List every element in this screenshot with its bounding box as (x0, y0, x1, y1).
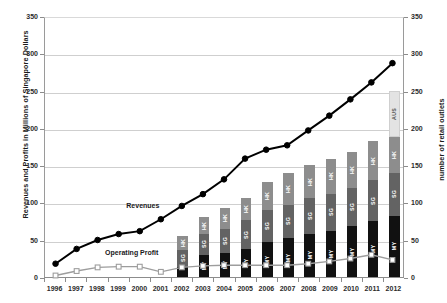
bar-segment-HK-2006: HK (262, 182, 273, 210)
y-tick-label-left-100: 100 (12, 199, 38, 206)
bar-segment-HK-2011: HK (368, 141, 379, 180)
bar-segment-MY-2006: MY (262, 242, 273, 277)
bar-segment-HK-2004: HK (220, 208, 231, 229)
y-tickmark (404, 278, 408, 279)
y-axis-label-right: number of retail outlets (437, 70, 446, 210)
y-tick-label-right-250: 250 (411, 88, 437, 95)
bar-segment-label-SG: SG (201, 240, 207, 248)
bar-segment-HK-2010: HK (347, 152, 358, 188)
bar-segment-label-SG: SG (180, 254, 186, 262)
gridline (45, 93, 403, 94)
bar-segment-label-HK: HK (328, 172, 334, 180)
y-tick-label-left-350: 350 (12, 13, 38, 20)
stacked-bar-2003: MYSGHK (199, 217, 210, 277)
data-point-revenues-2004 (221, 177, 227, 183)
x-tickmark (256, 278, 257, 282)
bar-segment-SG-2006: SG (262, 210, 273, 242)
bar-segment-label-HK: HK (180, 239, 186, 247)
data-point-revenues-2003 (200, 191, 206, 197)
gridline (45, 55, 403, 56)
y-tickmark (404, 129, 408, 130)
bar-segment-MY-2003: MY (199, 255, 210, 277)
y-tick-label-right-100: 100 (411, 199, 437, 206)
stacked-bar-2010: MYSGHK (347, 152, 358, 277)
bar-segment-label-HK: HK (307, 178, 313, 186)
bar-segment-label-HK: HK (349, 166, 355, 174)
bar-segment-SG-2005: SG (241, 220, 252, 248)
data-point-revenues-2005 (242, 156, 248, 162)
y-tickmark (40, 203, 44, 204)
bar-segment-SG-2007: SG (283, 205, 294, 239)
y-tickmark (40, 54, 44, 55)
x-tickmark (213, 278, 214, 282)
bar-segment-label-SG: SG (328, 208, 334, 216)
bar-segment-label-MY: MY (349, 247, 355, 255)
data-point-revenues-2007 (284, 143, 290, 149)
y-tickmark (404, 203, 408, 204)
y-tickmark (404, 241, 408, 242)
stacked-bar-2009: MYSGHK (326, 159, 337, 277)
bar-segment-label-SG: SG (370, 197, 376, 205)
bar-segment-label-MY: MY (328, 250, 334, 258)
stacked-bar-2004: MYSGHK (220, 208, 231, 277)
x-tickmark (277, 278, 278, 282)
bar-segment-SG-2002: SG (177, 250, 188, 266)
y-tickmark (404, 17, 408, 18)
annotation-revenues: Revenues (126, 202, 159, 209)
chart-container: Revenues and Profits in Millions of Sing… (0, 0, 447, 303)
plot-area: SGHKMYSGHKMYSGHKMYSGHKMYSGHKMYSGHKMYSGHK… (44, 17, 404, 278)
stacked-bar-2005: MYSGHK (241, 198, 252, 277)
y-tick-label-right-350: 350 (411, 13, 437, 20)
bar-segment-label-SG: SG (285, 217, 291, 225)
bar-segment-label-SG: SG (307, 212, 313, 220)
bar-segment-SG-2010: SG (347, 188, 358, 227)
x-tickmark (383, 278, 384, 282)
bar-segment-HK-2008: HK (304, 165, 315, 198)
stacked-bar-2002: SGHK (177, 236, 188, 277)
bar-segment-MY-2004: MY (220, 253, 231, 277)
data-point-revenues-2012 (390, 60, 396, 66)
bar-segment-SG-2003: SG (199, 234, 210, 255)
bar-segment-label-SG: SG (222, 237, 228, 245)
bar-segment-label-MY: MY (370, 245, 376, 253)
bar-segment-label-MY: MY (307, 251, 313, 259)
x-tickmark (171, 278, 172, 282)
data-point-revenues-1999 (116, 231, 122, 237)
y-tickmark (404, 92, 408, 93)
bar-segment-label-MY: MY (201, 262, 207, 270)
bar-segment-label-HK: HK (285, 185, 291, 193)
bar-segment-SG-2009: SG (326, 194, 337, 231)
x-tickmark (44, 278, 45, 282)
data-point-revenues-1996 (53, 261, 59, 267)
y-tickmark (40, 129, 44, 130)
y-tickmark (40, 92, 44, 93)
y-tick-label-left-300: 300 (12, 50, 38, 57)
data-point-operating-profit-1998 (95, 265, 100, 270)
stacked-bar-2012: MYSGHKAUS (389, 91, 400, 277)
data-point-operating-profit-2001 (158, 269, 163, 274)
stacked-bar-2011: MYSGHK (368, 141, 379, 277)
bar-segment-MY-2010: MY (347, 226, 358, 277)
y-tickmark (404, 166, 408, 167)
y-tickmark (40, 17, 44, 18)
bar-segment-label-SG: SG (243, 231, 249, 239)
bar-segment-label-HK: HK (264, 192, 270, 200)
x-tickmark (108, 278, 109, 282)
y-tick-label-right-0: 0 (411, 274, 437, 281)
data-point-revenues-2000 (137, 228, 143, 234)
x-tickmark (86, 278, 87, 282)
data-point-operating-profit-2000 (137, 264, 142, 269)
y-tick-label-right-150: 150 (411, 162, 437, 169)
data-point-revenues-2006 (263, 147, 269, 153)
x-tickmark (192, 278, 193, 282)
bar-segment-MY-2005: MY (241, 249, 252, 277)
bar-segment-label-SG: SG (349, 203, 355, 211)
y-tick-label-right-50: 50 (411, 237, 437, 244)
stacked-bar-2008: MYSGHK (304, 165, 315, 277)
bar-segment-HK-2009: HK (326, 159, 337, 193)
data-point-operating-profit-1996 (53, 273, 58, 278)
x-tickmark (341, 278, 342, 282)
data-point-operating-profit-1997 (74, 269, 79, 274)
data-point-revenues-2011 (369, 80, 375, 86)
bar-segment-MY-2011: MY (368, 221, 379, 277)
